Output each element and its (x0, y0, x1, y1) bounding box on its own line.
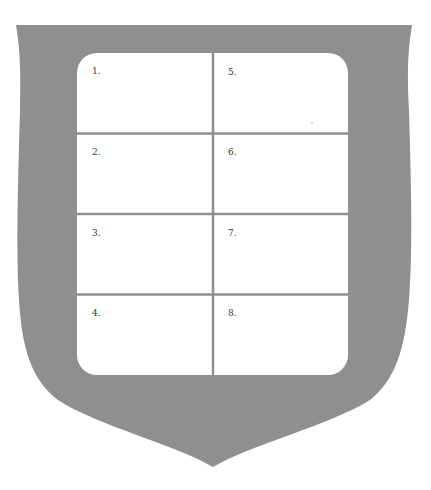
cell-label-8: 8. (228, 308, 237, 318)
stray-dot (311, 122, 313, 124)
shield-graphic (0, 0, 431, 490)
cell-label-2: 2. (92, 147, 101, 157)
cell-label-5: 5. (228, 67, 237, 77)
cell-label-3: 3. (92, 228, 101, 238)
cell-label-7: 7. (228, 228, 237, 238)
cell-label-1: 1. (92, 66, 101, 76)
cell-label-4: 4. (92, 308, 101, 318)
cell-label-6: 6. (228, 147, 237, 157)
